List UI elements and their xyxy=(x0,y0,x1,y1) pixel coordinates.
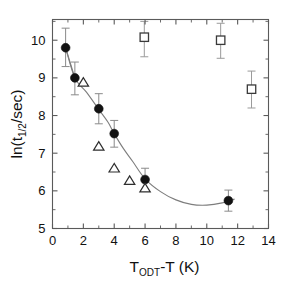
y-tick-label: 6 xyxy=(38,183,45,198)
data-point-square xyxy=(247,85,255,93)
data-point-triangle xyxy=(140,183,150,192)
x-tick-label: 12 xyxy=(230,233,244,248)
x-tick-label: 2 xyxy=(80,233,87,248)
marker-layer xyxy=(61,33,256,205)
data-point-triangle xyxy=(78,78,88,87)
chart-figure: 024681012145678910TODT-T (K)ln(t1/2/sec) xyxy=(0,0,296,289)
y-tick-label: 7 xyxy=(38,146,45,161)
axis-labels-layer: 024681012145678910TODT-T (K)ln(t1/2/sec) xyxy=(8,33,276,278)
x-tick-label: 8 xyxy=(172,233,179,248)
data-point-circle xyxy=(61,43,70,52)
data-point-circle xyxy=(94,104,103,113)
x-axis-label: TODT-T (K) xyxy=(130,258,200,278)
x-tick-label: 14 xyxy=(261,233,275,248)
y-axis-label: ln(t1/2/sec) xyxy=(8,89,28,158)
x-tick-label: 6 xyxy=(141,233,148,248)
x-tick-label: 10 xyxy=(200,233,214,248)
x-tick-label: 0 xyxy=(49,233,56,248)
y-tick-label: 9 xyxy=(38,70,45,85)
data-point-circle xyxy=(70,73,79,82)
data-point-triangle xyxy=(124,176,134,185)
x-tick-label: 4 xyxy=(111,233,118,248)
y-tick-label: 10 xyxy=(31,33,45,48)
data-point-circle xyxy=(110,129,119,138)
axes-layer xyxy=(53,20,269,229)
scatter-plot: 024681012145678910TODT-T (K)ln(t1/2/sec) xyxy=(0,0,296,289)
data-point-triangle xyxy=(109,163,119,172)
y-tick-label: 5 xyxy=(38,221,45,236)
fit-curve xyxy=(66,48,235,206)
data-point-square xyxy=(140,33,148,41)
data-point-circle xyxy=(224,196,233,205)
plot-frame xyxy=(53,20,269,229)
errorbar-layer xyxy=(62,21,256,211)
y-tick-label: 8 xyxy=(38,108,45,123)
data-point-triangle xyxy=(94,142,104,151)
fit-curve-layer xyxy=(66,48,235,206)
data-point-square xyxy=(216,36,224,44)
